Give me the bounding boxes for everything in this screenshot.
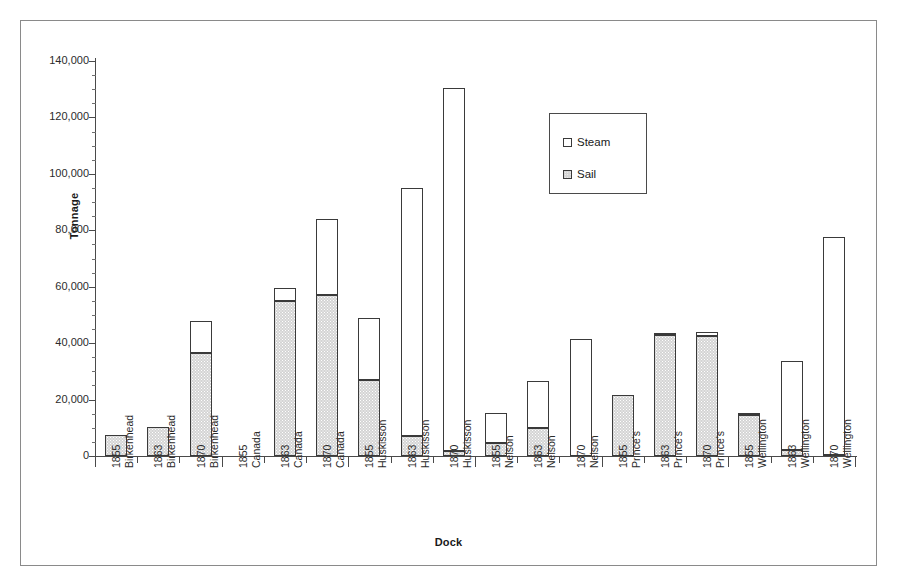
bar-segment-steam[interactable] <box>274 288 296 301</box>
legend-swatch-sail-icon <box>563 170 572 179</box>
x-axis-tick-label-year: 1863 <box>785 368 799 468</box>
x-axis-tick-label-dock: Wellington <box>755 368 769 468</box>
x-axis-group-tick-mark <box>602 457 603 467</box>
x-axis-tick-label-year: 1863 <box>278 368 292 468</box>
x-axis-group-tick-mark <box>475 457 476 467</box>
x-axis-group-tick-mark <box>95 457 96 467</box>
x-axis-tick-label-dock: Wellington <box>840 368 854 468</box>
legend-label-sail: Sail <box>577 168 596 180</box>
legend-label-steam: Steam <box>577 136 610 148</box>
x-axis-tick-label-dock: Nelson <box>502 368 516 468</box>
x-axis-tick-mark <box>179 457 180 463</box>
x-axis-tick-label-dock: Canada <box>333 368 347 468</box>
x-axis-tick-mark <box>644 457 645 463</box>
x-axis-tick-label-dock: Huskisson <box>460 368 474 468</box>
x-axis-tick-mark <box>813 457 814 463</box>
x-axis-tick-label-dock: Birkenhead <box>207 368 221 468</box>
x-axis-tick-mark <box>264 457 265 463</box>
y-axis-tick-label: 60,000 <box>11 280 89 292</box>
y-axis-tick-label: 140,000 <box>11 54 89 66</box>
x-axis-tick-mark <box>137 457 138 463</box>
x-axis-tick-mark <box>306 457 307 463</box>
x-axis-group-tick-mark <box>222 457 223 467</box>
chart-legend: Steam Sail <box>549 113 647 194</box>
x-axis-tick-label-year: 1855 <box>109 368 123 468</box>
x-axis-tick-label-dock: Nelson <box>587 368 601 468</box>
x-axis-tick-label-dock: Prince's <box>671 368 685 468</box>
legend-swatch-steam-icon <box>563 138 572 147</box>
y-axis-tick-labels: 140,000120,000100,00080,00060,00040,0002… <box>5 0 89 585</box>
x-axis-tick-label-year: 1870 <box>447 368 461 468</box>
x-axis-tick-label-dock: Birkenhead <box>164 368 178 468</box>
x-axis-tick-mark <box>686 457 687 463</box>
x-axis-tick-mark <box>771 457 772 463</box>
x-axis-tick-label-year: 1863 <box>658 368 672 468</box>
x-axis-tick-label-year: 1870 <box>194 368 208 468</box>
x-axis-tick-label-dock: Wellington <box>798 368 812 468</box>
x-axis-tick-label-dock: Huskisson <box>375 368 389 468</box>
x-axis-tick-label-year: 1855 <box>489 368 503 468</box>
x-axis-tick-label-dock: Prince's <box>713 368 727 468</box>
x-axis-tick-label-dock: Prince's <box>629 368 643 468</box>
x-axis-tick-mark <box>559 457 560 463</box>
bar-segment-steam[interactable] <box>190 321 212 353</box>
y-axis-tick-label: 0 <box>11 449 89 461</box>
x-axis-tick-mark <box>433 457 434 463</box>
x-axis-tick-mark <box>517 457 518 463</box>
y-axis-tick-label: 80,000 <box>11 223 89 235</box>
x-axis-tick-label-year: 1870 <box>827 368 841 468</box>
x-axis-title: Dock <box>0 536 897 548</box>
legend-item-sail: Sail <box>563 168 596 180</box>
x-axis-tick-label-dock: Huskisson <box>418 368 432 468</box>
x-axis-end-tick-mark <box>855 457 856 467</box>
y-axis-tick-label: 20,000 <box>11 393 89 405</box>
x-axis-group-tick-mark <box>728 457 729 467</box>
x-axis-tick-label-year: 1855 <box>236 368 250 468</box>
bar-segment-steam[interactable] <box>316 219 338 295</box>
legend-item-steam: Steam <box>563 136 610 148</box>
x-axis-tick-label-dock: Birkenhead <box>122 368 136 468</box>
y-axis-tick-label: 40,000 <box>11 336 89 348</box>
x-axis-tick-label-dock: Canada <box>249 368 263 468</box>
y-axis-tick-label: 120,000 <box>11 110 89 122</box>
x-axis-tick-label-dock: Nelson <box>544 368 558 468</box>
x-axis-tick-label-year: 1870 <box>574 368 588 468</box>
y-axis-tick-label: 100,000 <box>11 167 89 179</box>
x-axis-tick-label-year: 1863 <box>405 368 419 468</box>
x-axis-tick-label-year: 1855 <box>616 368 630 468</box>
x-axis-group-tick-mark <box>348 457 349 467</box>
x-axis-tick-label-dock: Canada <box>291 368 305 468</box>
x-axis-tick-mark <box>391 457 392 463</box>
